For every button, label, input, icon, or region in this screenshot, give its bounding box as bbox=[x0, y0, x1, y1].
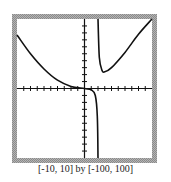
graph-window bbox=[12, 14, 157, 163]
window-caption: [-10, 10] by [-100, 100] bbox=[0, 163, 171, 174]
chart-plot bbox=[12, 14, 157, 163]
